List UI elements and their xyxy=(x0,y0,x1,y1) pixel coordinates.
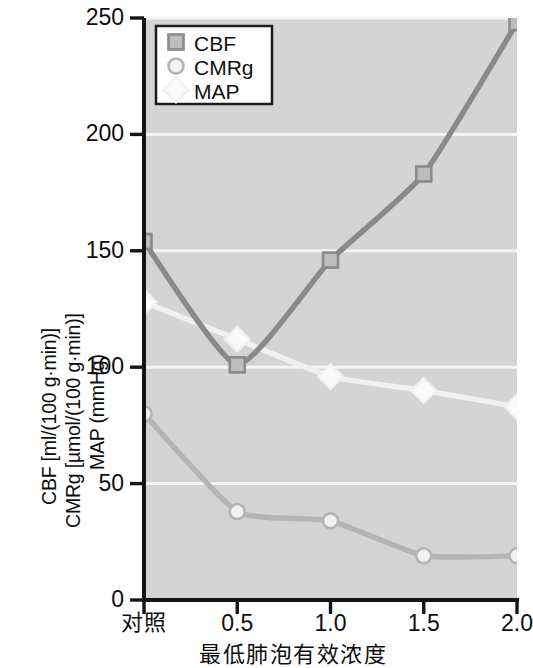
y-tick-label: 100 xyxy=(84,355,124,378)
legend xyxy=(156,26,272,104)
data-point-marker xyxy=(323,253,338,268)
x-axis-title: 最低肺泡有效浓度 xyxy=(0,636,526,668)
data-point-marker xyxy=(230,357,245,372)
data-point-marker xyxy=(230,504,245,519)
x-tick-label: 1.0 xyxy=(315,612,347,635)
legend-marker-cmrg xyxy=(169,59,184,74)
y-axis-title-line-cbf: CBF [ml/(100 g·min)] xyxy=(38,328,61,505)
x-tick-label: 1.5 xyxy=(408,612,440,635)
x-tick-label: 0.5 xyxy=(221,612,253,635)
data-point-marker xyxy=(169,35,184,50)
y-tick-label: 250 xyxy=(84,6,124,29)
legend-marker-cbf xyxy=(169,35,184,50)
data-point-marker xyxy=(510,548,525,563)
data-point-marker xyxy=(169,59,184,74)
data-point-marker xyxy=(323,513,338,528)
x-tick-label: 对照 xyxy=(121,612,167,634)
y-tick-label: 150 xyxy=(84,239,124,262)
data-point-marker xyxy=(416,166,431,181)
y-tick-label: 200 xyxy=(84,122,124,145)
y-axis-title: CBF [ml/(100 g·min)] CMRg [µmol/(100 g·m… xyxy=(0,0,100,620)
x-tick-label: 2.0 xyxy=(501,612,533,635)
data-point-marker xyxy=(416,548,431,563)
y-tick-label: 50 xyxy=(84,472,124,495)
x-tick-label-group: 对照0.51.01.52.0 xyxy=(0,604,526,638)
y-tick-label-group: 050100150200250 xyxy=(96,0,136,620)
y-axis-title-line-cmrg: CMRg [µmol/(100 g·min)] xyxy=(62,313,85,528)
